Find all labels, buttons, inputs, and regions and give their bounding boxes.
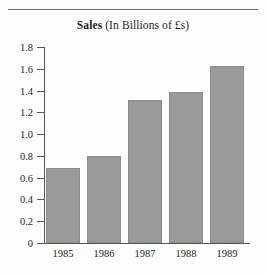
bar-1988 xyxy=(169,92,203,243)
y-axis-tick xyxy=(37,112,44,113)
x-axis-label-1987: 1987 xyxy=(122,248,168,259)
y-axis-tick-label: 0.8 xyxy=(0,150,33,161)
bar-slot xyxy=(87,156,121,243)
y-axis-tick-label: 0.4 xyxy=(0,194,33,205)
y-axis-tick xyxy=(37,91,44,92)
bar-1985 xyxy=(46,168,80,243)
y-axis-tick-label: 1.2 xyxy=(0,107,33,118)
y-axis-tick-label: 1.4 xyxy=(0,85,33,96)
bar-slot xyxy=(210,66,244,243)
bar-chart-plot: 1.81.61.41.21.00.80.60.40.20 19851986198… xyxy=(0,0,266,277)
y-axis-tick-label: 0 xyxy=(0,238,33,249)
x-axis-label-1986: 1986 xyxy=(81,248,127,259)
bar-series xyxy=(46,47,250,243)
y-axis-tick-label: 0.2 xyxy=(0,216,33,227)
bar-slot xyxy=(46,168,80,243)
y-axis-tick xyxy=(37,199,44,200)
y-axis-tick xyxy=(37,47,44,48)
y-axis-tick xyxy=(37,156,44,157)
y-axis-tick xyxy=(37,221,44,222)
x-axis-label-1985: 1985 xyxy=(40,248,86,259)
x-axis-label-1989: 1989 xyxy=(204,248,250,259)
y-axis-tick xyxy=(37,69,44,70)
y-axis-tick-label: 1.8 xyxy=(0,42,33,53)
bar-slot xyxy=(169,92,203,243)
y-axis-tick-label: 1.6 xyxy=(0,63,33,74)
y-axis-line xyxy=(44,47,45,243)
bar-1989 xyxy=(210,66,244,243)
y-axis-tick-label: 0.6 xyxy=(0,172,33,183)
y-axis-tick xyxy=(37,134,44,135)
x-axis-label-1988: 1988 xyxy=(163,248,209,259)
bar-1987 xyxy=(128,100,162,243)
bar-1986 xyxy=(87,156,121,243)
y-axis-tick-label: 1.0 xyxy=(0,129,33,140)
bar-slot xyxy=(128,100,162,243)
y-axis-tick xyxy=(37,243,44,244)
y-axis-tick xyxy=(37,178,44,179)
x-axis-line xyxy=(38,243,250,244)
